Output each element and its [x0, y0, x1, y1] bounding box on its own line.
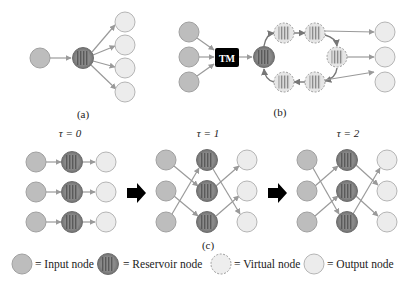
tau-0-network [26, 152, 116, 233]
output-node [115, 82, 135, 102]
panel-b-caption: (b) [274, 106, 287, 119]
legend-output-node-icon [304, 254, 324, 274]
input-node [26, 182, 46, 202]
input-node [297, 150, 317, 170]
tau-2-network [297, 150, 397, 233]
input-node [179, 72, 199, 92]
reservoir-node [254, 47, 275, 68]
legend-reservoir-label: = Reservoir node [123, 258, 202, 270]
output-node [96, 212, 116, 232]
output-node [115, 58, 135, 78]
input-node [26, 212, 46, 232]
panel-c: τ = 0 τ = 1 τ = 2 [26, 127, 397, 252]
reservoir-node [197, 150, 218, 171]
panel-c-caption: (c) [202, 239, 215, 252]
reservoir-node [62, 152, 83, 173]
virtual-node [274, 72, 294, 92]
legend-virtual-node-icon [211, 254, 231, 274]
virtual-node [327, 47, 347, 67]
input-node [30, 48, 50, 68]
input-node [179, 47, 199, 67]
virtual-node [305, 72, 325, 92]
tm-box: TM [215, 48, 239, 67]
output-node [377, 150, 397, 170]
reservoir-node [197, 212, 218, 233]
output-node [115, 12, 135, 32]
panel-b: TM (b) [179, 22, 395, 119]
tm-label: TM [219, 53, 236, 64]
input-node [156, 150, 176, 170]
reservoir-node [62, 182, 83, 203]
reservoir-node [337, 212, 358, 233]
legend: = Input node = Reservoir node = Virtual … [12, 254, 394, 275]
output-node [375, 72, 395, 92]
output-node [375, 22, 395, 42]
output-node [96, 182, 116, 202]
reservoir-node [73, 48, 94, 69]
reservoir-node [62, 212, 83, 233]
output-node [237, 181, 257, 201]
virtual-node [274, 23, 294, 43]
reservoir-node [197, 181, 218, 202]
input-node [179, 22, 199, 42]
step-arrow-icon [268, 183, 287, 203]
output-node [237, 150, 257, 170]
output-node [377, 212, 397, 232]
legend-output-label: = Output node [327, 258, 394, 271]
output-node [96, 152, 116, 172]
legend-virtual-label: = Virtual node [234, 258, 300, 270]
step-arrow-icon [127, 183, 146, 203]
tau-0-label: τ = 0 [59, 127, 82, 139]
legend-input-node-icon [12, 254, 32, 274]
virtual-node [305, 23, 325, 43]
output-node [375, 47, 395, 67]
reservoir-computing-diagram: (a) TM [0, 0, 416, 286]
legend-input-label: = Input node [35, 258, 94, 271]
input-node [297, 181, 317, 201]
tau-2-label: τ = 2 [337, 127, 360, 139]
legend-reservoir-node-icon [98, 254, 119, 275]
input-node [26, 152, 46, 172]
reservoir-node [337, 150, 358, 171]
output-node [237, 212, 257, 232]
output-node [115, 35, 135, 55]
tau-1-network [156, 150, 257, 233]
tau-1-label: τ = 1 [197, 127, 219, 139]
output-node [377, 181, 397, 201]
reservoir-node [337, 181, 358, 202]
input-node [297, 212, 317, 232]
input-node [156, 212, 176, 232]
panel-a-caption: (a) [77, 108, 90, 121]
panel-a: (a) [30, 12, 135, 121]
input-node [156, 181, 176, 201]
